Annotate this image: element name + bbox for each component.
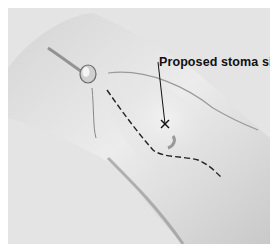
illustration-frame: Proposed stoma site	[8, 8, 270, 244]
abdomen-illustration	[8, 8, 270, 244]
stoma-site-label: Proposed stoma site	[159, 55, 270, 69]
